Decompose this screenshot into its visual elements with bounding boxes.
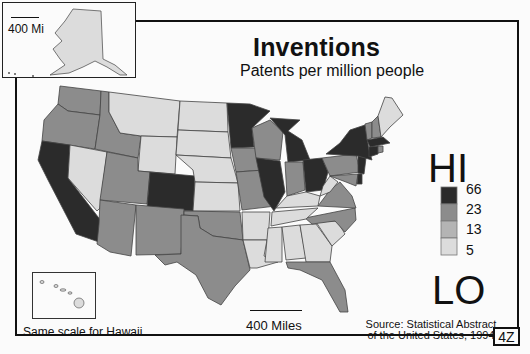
hawaii-caption: Same scale for Hawaii <box>23 325 142 339</box>
state-in <box>285 162 305 196</box>
map-subtitle: Patents per million people <box>240 62 424 80</box>
state-ct <box>369 146 378 157</box>
state-co <box>147 172 195 211</box>
map-code-badge: 4Z <box>493 327 520 346</box>
state-az <box>97 200 136 256</box>
hawaii-inset <box>32 272 96 319</box>
state-fl <box>286 262 348 312</box>
state-nj <box>358 156 366 174</box>
legend-hi-label: HI <box>428 148 468 188</box>
state-sd <box>176 130 231 158</box>
state-ny <box>326 125 372 160</box>
map-title: Inventions <box>253 33 380 62</box>
state-mt <box>109 92 180 137</box>
state-wy <box>138 136 177 174</box>
legend-lo-label: LO <box>432 270 485 310</box>
source-citation: Source: Statistical Abstract of the Unit… <box>356 319 506 341</box>
state-ri <box>378 146 383 153</box>
alaska-inset: 400 Mi <box>2 2 136 78</box>
legend-tick-5: 5 <box>466 242 474 258</box>
scale-bar <box>250 310 302 311</box>
state-me <box>378 97 403 137</box>
legend-tick-13: 13 <box>466 221 482 237</box>
state-ks <box>193 182 240 211</box>
state-nd <box>178 101 228 132</box>
legend-swatch-low <box>441 238 457 255</box>
state-ar <box>242 212 270 240</box>
state-de <box>357 174 362 184</box>
legend-tick-66: 66 <box>466 181 482 197</box>
source-line-2: of the United States, 1994 <box>356 330 506 341</box>
alaska-shape <box>3 3 137 79</box>
scale-label: 400 Miles <box>246 318 302 333</box>
state-ms <box>265 227 282 262</box>
legend-swatch-high <box>441 204 457 221</box>
legend-tick-23: 23 <box>466 201 482 217</box>
state-nm <box>136 205 184 255</box>
legend-swatch-medium <box>441 221 457 238</box>
